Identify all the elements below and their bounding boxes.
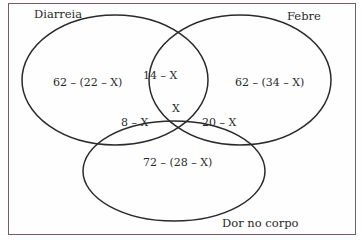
set-label-dor-no-corpo: Dor no corpo [222,218,298,230]
region-febre-dor: 20 – X [202,117,236,128]
region-all-three: X [172,103,180,114]
set-label-febre: Febre [287,11,321,23]
region-febre-only: 62 – (34 – X) [235,77,304,88]
region-diarreia-only: 62 – (22 – X) [53,77,122,88]
region-diarreia-dor: 8 – X [121,117,148,128]
set-label-diarreia: Diarreia [34,9,82,21]
region-dor-only: 72 – (28 – X) [143,157,212,168]
set-dor-circle [83,121,265,221]
venn-diagram [0,0,363,243]
region-diarreia-febre: 14 – X [143,70,177,81]
